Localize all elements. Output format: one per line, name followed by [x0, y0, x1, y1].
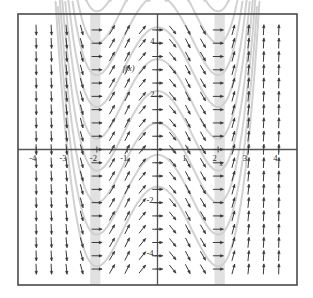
direction-field-figure: -4-3-2-11234-4-224 f(x)x: [0, 0, 313, 298]
plot-canvas: -4-3-2-11234-4-224 f(x)x: [0, 0, 313, 298]
x-tick-label: -3: [59, 153, 66, 163]
x-tick-label: -1: [120, 153, 127, 163]
y-tick-label: 2: [150, 89, 154, 99]
x-tick-label: 2: [213, 153, 217, 163]
x-tick-label: -2: [90, 153, 97, 163]
function-label: f(x): [123, 63, 135, 73]
x-tick-label: -4: [29, 153, 37, 163]
x-tick-label: 3: [243, 153, 247, 163]
y-tick-label: -2: [146, 195, 153, 205]
x-tick-label: 4: [273, 153, 278, 163]
x-tick-label: 1: [182, 153, 186, 163]
y-tick-label: -4: [146, 248, 154, 258]
